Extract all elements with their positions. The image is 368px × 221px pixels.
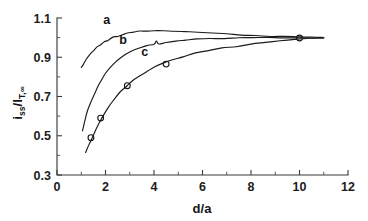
y-tick-label: 0.5 [34,129,51,143]
curve-label-b: b [119,33,127,47]
curve-label-c: c [141,45,148,59]
y-axis-title-sub-tinf: T,∞ [17,86,27,99]
y-tick-label: 1.1 [34,12,51,26]
y-tick-label: 0.9 [34,51,51,65]
y-axis-title-sub-ss: ss [17,106,27,116]
x-tick-label: 8 [248,180,255,194]
x-tick-label: 4 [151,180,158,194]
y-axis-title-slash-i: /I [10,99,25,107]
x-tick-label: 0 [54,180,61,194]
y-tick-label: 0.3 [34,169,51,183]
x-tick-label: 10 [293,180,307,194]
x-tick-label: 6 [199,180,206,194]
figure-container: 024681012 0.30.50.70.91.1 abc d/a iss/IT… [0,0,368,221]
scatter-line-chart: 024681012 0.30.50.70.91.1 abc d/a iss/IT… [0,0,368,221]
x-tick-label: 12 [341,180,355,194]
x-tick-label: 2 [102,180,109,194]
curve-label-a: a [103,13,111,27]
y-tick-label: 0.7 [34,90,51,104]
x-axis-title: d/a [193,201,213,216]
